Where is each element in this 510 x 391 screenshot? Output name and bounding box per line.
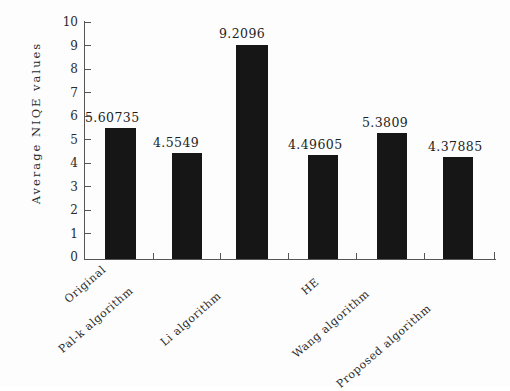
y-tick-mark-4: [85, 163, 91, 164]
x-tick-mark-1: [153, 253, 154, 260]
x-category-label-wang-algorithm: Wang algorithm: [290, 287, 372, 361]
y-tick-mark-8: [85, 69, 91, 70]
bar-li-algorithm: [236, 45, 268, 260]
bar-value-li-algorithm: 9.2096: [219, 26, 265, 41]
y-tick-label-10: 10: [52, 15, 78, 29]
y-tick-label-0: 0: [52, 250, 78, 264]
y-tick-label-5: 5: [52, 133, 78, 147]
y-axis-title: Average NIQE values: [29, 23, 43, 223]
bar-value-original: 5.60735: [85, 110, 140, 125]
y-tick-mark-5: [85, 139, 91, 140]
y-tick-label-4: 4: [52, 156, 78, 170]
y-tick-mark-10: [85, 22, 91, 23]
bar-wang-algorithm: [377, 133, 408, 260]
bar-pal-k-algorithm: [172, 153, 202, 260]
y-tick-mark-7: [85, 92, 91, 93]
y-tick-label-3: 3: [52, 180, 78, 194]
y-tick-mark-1: [85, 233, 91, 234]
x-category-label-he: HE: [299, 276, 322, 298]
bar-value-pal-k-algorithm: 4.5549: [153, 135, 199, 150]
y-tick-mark-3: [85, 186, 91, 187]
bar-he: [308, 155, 338, 260]
x-tick-mark-end: [494, 252, 495, 260]
x-tick-mark-4: [356, 253, 357, 260]
bar-value-wang-algorithm: 5.3809: [362, 115, 408, 130]
x-tick-mark-3: [288, 253, 289, 260]
y-tick-label-9: 9: [52, 39, 78, 53]
bar-value-proposed-algorithm: 4.37885: [428, 139, 483, 154]
y-tick-label-2: 2: [52, 203, 78, 217]
y-tick-mark-2: [85, 210, 91, 211]
y-tick-label-6: 6: [52, 109, 78, 123]
y-axis-line: [84, 21, 85, 260]
bar-proposed-algorithm: [443, 157, 473, 260]
x-tick-mark-5: [424, 253, 425, 260]
x-category-label-original: Original: [62, 263, 109, 306]
bar-original: [105, 128, 136, 260]
x-category-label-li-algorithm: Li algorithm: [158, 289, 224, 349]
y-tick-mark-9: [85, 45, 91, 46]
y-tick-label-1: 1: [52, 227, 78, 241]
x-tick-mark-2: [220, 253, 221, 260]
x-axis-line: [84, 259, 496, 260]
y-tick-label-7: 7: [52, 86, 78, 100]
y-tick-label-8: 8: [52, 62, 78, 76]
bar-value-he: 4.49605: [288, 137, 343, 152]
